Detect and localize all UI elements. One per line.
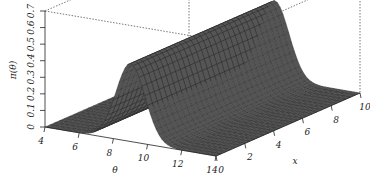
theta-tick-label: 8	[107, 148, 113, 158]
z-tick-label: 0.1	[26, 103, 36, 117]
x-axis-title: x	[292, 156, 297, 166]
theta-tick-label: 4	[37, 136, 44, 146]
z-tick-label: 0.7	[26, 4, 36, 19]
x-tick-label: 10	[359, 102, 370, 112]
z-axis: 00.10.20.30.40.50.60.7	[26, 4, 45, 130]
theta-axis-title: θ	[112, 165, 118, 175]
x-tick-label: 8	[333, 115, 339, 125]
x-tick-label: 4	[275, 140, 282, 150]
z-tick-label: 0.5	[26, 37, 36, 52]
x-tick-label: 0	[218, 165, 224, 175]
theta-tick-label: 6	[72, 142, 78, 152]
z-tick-label: 0	[26, 124, 36, 130]
z-tick-label: 0.4	[26, 53, 36, 68]
z-tick-label: 0.2	[26, 86, 36, 101]
x-tick-label: 6	[305, 127, 311, 137]
theta-tick-label: 10	[138, 153, 150, 163]
x-tick-label: 2	[246, 152, 253, 162]
z-tick-label: 0.3	[26, 70, 36, 85]
z-tick-label: 0.6	[26, 20, 36, 35]
surface-mesh	[45, 1, 360, 156]
z-axis-title: π(θ)	[8, 60, 18, 80]
theta-tick-label: 12	[172, 159, 184, 169]
surface-plot: 00.10.20.30.40.50.60.7 468101214 0246810…	[0, 0, 370, 189]
theta-tick-label: 14	[206, 165, 218, 175]
